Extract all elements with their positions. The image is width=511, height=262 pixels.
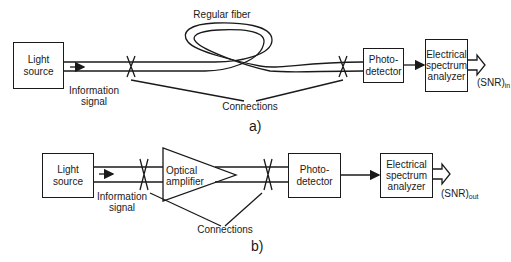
connection-mark-a-right bbox=[339, 56, 347, 77]
caption-a: a) bbox=[249, 118, 261, 134]
connection-mark-b-left bbox=[140, 159, 148, 190]
snr-in-label: (SNR)in bbox=[477, 77, 511, 91]
output-arrow-b bbox=[432, 164, 450, 184]
label: Light bbox=[28, 54, 50, 65]
connection-mark-a-left bbox=[127, 56, 135, 77]
output-arrow-a bbox=[467, 55, 485, 75]
label: source bbox=[23, 66, 53, 77]
fiber-loop-inner bbox=[194, 30, 363, 72]
info-signal-label-a: Informationsignal bbox=[66, 85, 122, 107]
esa-box-a: Electricalspectrumanalyzer bbox=[425, 39, 468, 92]
info-signal-label-b: Informationsignal bbox=[94, 191, 150, 213]
connection-mark-b-right bbox=[264, 159, 272, 190]
connections-label-b: Connections bbox=[190, 224, 260, 235]
connections-label-a: Connections bbox=[215, 101, 285, 112]
fiber-loop-outer bbox=[185, 23, 363, 67]
amplifier-label: Opticalamplifier bbox=[166, 165, 210, 187]
fiber-label: Regular fiber bbox=[190, 9, 254, 20]
esa-box-b: Electricalspectrumanalyzer bbox=[380, 153, 433, 198]
light-source-box-b: Lightsource bbox=[42, 153, 94, 198]
caption-b: b) bbox=[251, 238, 263, 254]
snr-out-label: (SNR)out bbox=[441, 188, 481, 202]
photodetector-box-b: Photo-detector bbox=[288, 153, 341, 198]
photodetector-box-a: Photo-detector bbox=[363, 48, 404, 83]
light-source-box-a: Lightsource bbox=[13, 42, 64, 89]
